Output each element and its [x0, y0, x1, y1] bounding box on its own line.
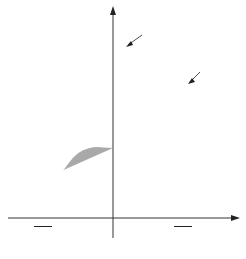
shaded-region: [63, 147, 113, 170]
leader-arrow-icon-2: [188, 78, 195, 84]
plot: [0, 0, 246, 259]
x-left-fraction: [34, 226, 52, 227]
fraction-bar: [34, 226, 52, 227]
fraction-bar: [174, 226, 192, 227]
x-right-fraction: [174, 226, 192, 227]
x-axis-arrow-icon: [231, 215, 240, 221]
y-axis-arrow-icon: [110, 6, 116, 15]
